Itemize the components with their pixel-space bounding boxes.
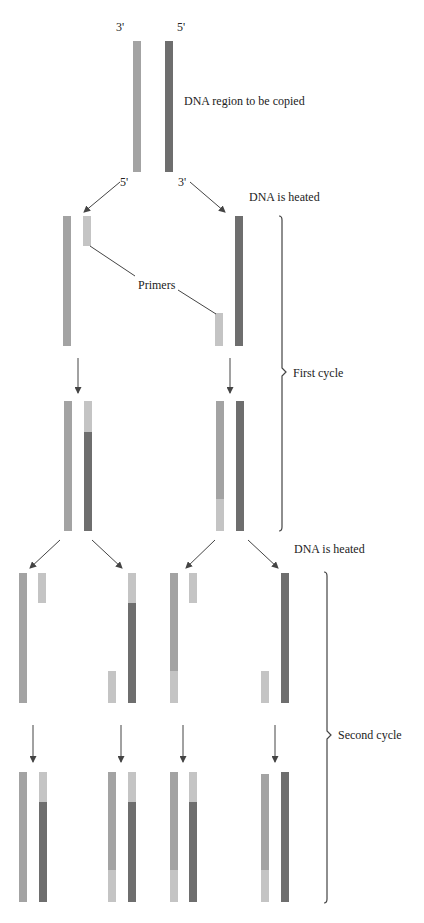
strand-segment-primer bbox=[108, 870, 116, 902]
strand-segment-primer bbox=[170, 671, 178, 703]
region-label: DNA region to be copied bbox=[184, 94, 305, 108]
end-label-5prime-top-right: 5' bbox=[177, 20, 185, 34]
strand-segment-template-strand bbox=[63, 216, 71, 346]
strand-segment-template-strand bbox=[216, 401, 224, 499]
strand-segment-primer bbox=[189, 573, 197, 603]
strand-segment-complement-strand bbox=[128, 802, 136, 902]
second-cycle-bracket bbox=[324, 572, 331, 903]
primer-leader-line bbox=[178, 290, 216, 314]
strand-segment-complement-strand bbox=[235, 216, 243, 346]
strand-segment-primer bbox=[189, 772, 197, 802]
strand-segment-primer bbox=[38, 573, 46, 603]
end-label-3prime-bottom-right: 3' bbox=[178, 175, 186, 189]
strand-segment-primer bbox=[108, 671, 116, 703]
strand-segment-complement-strand bbox=[39, 802, 47, 902]
strand-segment-template-strand bbox=[261, 774, 269, 870]
stage-original-duplex bbox=[133, 41, 173, 172]
strand-segment-primer bbox=[83, 216, 91, 246]
primer-leader-line bbox=[90, 246, 135, 276]
heated-label-1: DNA is heated bbox=[249, 190, 320, 204]
strand-segment-primer bbox=[261, 671, 269, 703]
strand-segment-primer bbox=[128, 772, 136, 802]
arrow-icon bbox=[92, 540, 122, 568]
pcr-diagram: 3' 5' DNA region to be copied 5' 3' DNA … bbox=[0, 0, 424, 923]
stage-second-cycle-separated bbox=[19, 573, 289, 703]
stage-second-cycle-extended bbox=[19, 772, 289, 902]
strand-segment-template-strand bbox=[108, 772, 116, 870]
strand-segment-primer bbox=[84, 401, 92, 432]
strand-segment-primer bbox=[128, 573, 136, 603]
strand-segment-primer bbox=[170, 870, 178, 902]
strand-segment-complement-strand bbox=[281, 573, 289, 703]
strand-segment-complement-strand bbox=[128, 603, 136, 703]
arrow-icon bbox=[30, 540, 60, 568]
strand-segment-primer bbox=[39, 772, 47, 802]
primers-label: Primers bbox=[138, 278, 175, 292]
strand-segment-template-strand bbox=[133, 41, 141, 172]
arrow-icon bbox=[84, 182, 120, 212]
strand-segment-template-strand bbox=[170, 772, 178, 870]
strand-segment-complement-strand bbox=[236, 401, 244, 531]
end-label-5prime-bottom-left: 5' bbox=[120, 175, 128, 189]
strand-segment-complement-strand bbox=[189, 802, 197, 902]
strand-segment-complement-strand bbox=[84, 432, 92, 531]
strand-segment-primer bbox=[216, 499, 224, 531]
first-cycle-label: First cycle bbox=[293, 366, 343, 380]
strand-segment-template-strand bbox=[170, 573, 178, 671]
arrow-icon bbox=[186, 540, 215, 568]
heated-label-2: DNA is heated bbox=[294, 542, 365, 556]
stage-first-cycle-extended bbox=[64, 401, 244, 531]
strand-segment-primer bbox=[261, 870, 269, 902]
dna-strands bbox=[19, 41, 289, 902]
strand-segment-template-strand bbox=[19, 573, 27, 703]
strand-segment-template-strand bbox=[19, 772, 27, 902]
strand-segment-template-strand bbox=[64, 401, 72, 531]
strand-segment-complement-strand bbox=[281, 772, 289, 902]
end-label-3prime-top-left: 3' bbox=[116, 20, 124, 34]
arrow-icon bbox=[190, 182, 225, 212]
arrow-icon bbox=[248, 540, 278, 568]
strand-segment-primer bbox=[215, 313, 223, 346]
diagram-artwork bbox=[0, 0, 424, 923]
first-cycle-bracket bbox=[279, 216, 286, 531]
second-cycle-label: Second cycle bbox=[338, 728, 402, 742]
strand-segment-complement-strand bbox=[165, 41, 173, 172]
